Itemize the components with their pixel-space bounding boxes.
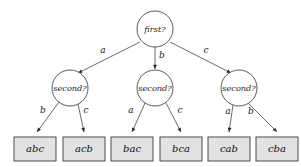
leaf-label: cba <box>268 143 286 154</box>
leaf-label: bca <box>172 143 190 154</box>
edge-label: c <box>177 105 182 115</box>
edge-label: a <box>225 106 230 116</box>
leaf-label: acb <box>75 143 93 154</box>
edge-label: b <box>40 105 46 115</box>
leaf-label: cab <box>220 143 238 154</box>
tree-edge <box>78 42 140 73</box>
edge-arrowhead-icon <box>37 127 41 132</box>
edge-label: c <box>83 105 88 115</box>
diagram-canvas: first?second?second?second? abcacbbacbca… <box>0 0 301 167</box>
edge-arrowhead-icon <box>153 65 157 69</box>
decision-tree-svg: first?second?second?second? abcacbbacbca… <box>0 0 301 167</box>
edge-label: b <box>159 50 165 60</box>
edge-label: b <box>248 106 254 116</box>
edge-label: a <box>100 45 105 55</box>
edge-arrowhead-icon <box>228 128 232 132</box>
internal-node-2-label: second? <box>222 83 256 93</box>
nodes-group: first?second?second?second? <box>52 11 257 106</box>
edge-label: a <box>128 105 133 115</box>
tree-edge <box>132 103 145 132</box>
edge-arrowhead-icon <box>81 127 85 132</box>
leaf-label: bac <box>123 143 141 154</box>
edge-label: c <box>203 45 208 55</box>
tree-edge <box>170 42 231 73</box>
leaf-label: abc <box>26 143 44 154</box>
leaves-group: abcacbbacbcacabcba <box>14 137 298 161</box>
internal-node-0-label: second? <box>53 83 87 93</box>
internal-node-1-label: second? <box>138 83 172 93</box>
root-node-label: first? <box>143 24 166 34</box>
